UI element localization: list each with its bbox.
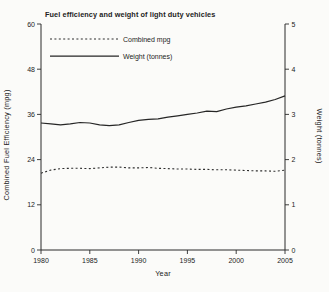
left-tick-label: 0 bbox=[31, 247, 35, 254]
chart-title: Fuel efficiency and weight of light duty… bbox=[45, 10, 215, 19]
series-combined-mpg bbox=[41, 167, 285, 173]
x-tick-label: 2000 bbox=[228, 257, 244, 264]
x-tick-label: 1990 bbox=[131, 257, 147, 264]
left-tick-label: 48 bbox=[27, 66, 35, 73]
x-tick-label: 1985 bbox=[82, 257, 98, 264]
series-layer bbox=[41, 96, 285, 173]
right-tick-label: 1 bbox=[292, 201, 296, 208]
right-axis-label: Weight (tonnes) bbox=[315, 108, 324, 163]
x-tick-label: 1980 bbox=[33, 257, 49, 264]
x-tick-label: 2005 bbox=[277, 257, 293, 264]
right-tick-label: 3 bbox=[292, 111, 296, 118]
left-tick-label: 36 bbox=[27, 111, 35, 118]
figure: 0122436486001234519801985199019952000200… bbox=[0, 0, 329, 292]
series-weight-tonnes bbox=[41, 96, 285, 126]
x-tick-label: 1995 bbox=[180, 257, 196, 264]
left-axis-label: Combined Fuel Efficiency (mpg) bbox=[2, 89, 11, 200]
right-tick-label: 5 bbox=[292, 21, 296, 28]
left-tick-label: 12 bbox=[27, 201, 35, 208]
chart-canvas: 0122436486001234519801985199019952000200… bbox=[0, 0, 329, 292]
right-tick-label: 4 bbox=[292, 66, 296, 73]
right-tick-label: 2 bbox=[292, 156, 296, 163]
legend-label-weight: Weight (tonnes) bbox=[123, 53, 172, 61]
left-tick-label: 24 bbox=[27, 156, 35, 163]
legend-label-combined-mpg: Combined mpg bbox=[123, 36, 171, 44]
x-axis-label: Year bbox=[155, 269, 171, 278]
right-tick-label: 0 bbox=[292, 247, 296, 254]
left-tick-label: 60 bbox=[27, 21, 35, 28]
legend: Combined mpg Weight (tonnes) bbox=[50, 36, 172, 61]
